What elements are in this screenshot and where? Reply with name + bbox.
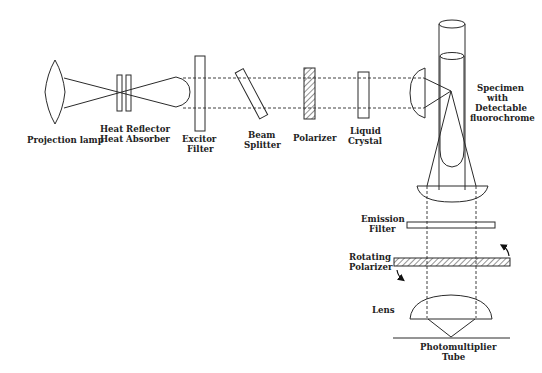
- label-excitor-filter: Filter: [187, 144, 214, 154]
- specimen-tube: [439, 20, 465, 190]
- emission-filter: [407, 222, 495, 228]
- lens: [410, 295, 492, 319]
- focusing-lens: [410, 68, 451, 118]
- projection-lamp: [45, 60, 65, 124]
- label-emission: Emission: [361, 214, 406, 224]
- excitor-filter: [195, 56, 205, 131]
- label-heat-reflector: Heat Reflector: [100, 124, 170, 134]
- label-detectable: Detectable: [475, 103, 527, 113]
- label-tube: Tube: [442, 352, 466, 362]
- label-beam: Beam: [248, 130, 275, 140]
- label-liquid: Liquid: [350, 126, 381, 136]
- label-splitter: Splitter: [244, 140, 281, 150]
- label-emission-filter: Filter: [369, 224, 396, 234]
- label-projection-lamp: Projection lamp: [27, 135, 104, 145]
- label-photomultiplier: Photomultiplier: [420, 342, 497, 352]
- label-crystal: Crystal: [348, 136, 383, 146]
- polarizer: [304, 68, 315, 119]
- emission-cone: [427, 91, 476, 186]
- rotating-polarizer: [394, 258, 510, 266]
- beam-splitter: [235, 69, 267, 119]
- label-with: with: [486, 93, 509, 103]
- label-specimen: Specimen: [477, 83, 525, 93]
- lamp-beam-lines: [64, 77, 176, 108]
- label-fluorochrome: fluorochrome: [470, 113, 535, 123]
- label-lens: Lens: [372, 305, 395, 315]
- liquid-crystal: [358, 72, 369, 118]
- condenser-lens: [176, 77, 190, 107]
- label-polarizer: Polarizer: [293, 133, 337, 143]
- label-rotating-polarizer: Polarizer: [349, 262, 393, 272]
- collecting-lens: [417, 186, 488, 202]
- lens-focus-lines: [428, 319, 475, 337]
- label-excitor: Excitor: [182, 134, 217, 144]
- label-heat-absorber: Heat Absorber: [100, 134, 170, 144]
- emission-beam: [427, 186, 476, 318]
- label-rotating: Rotating: [349, 252, 391, 262]
- optical-diagram: Projection lamp Heat Reflector Heat Abso…: [0, 0, 542, 373]
